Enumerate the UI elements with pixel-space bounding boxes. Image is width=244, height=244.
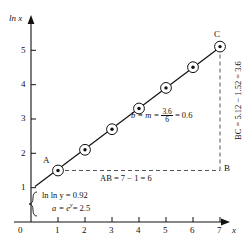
- x-tick-label-1: 1: [55, 226, 60, 235]
- intercept-ln-y: ln y = 0.92: [51, 190, 88, 200]
- point-c-marker: [215, 41, 226, 52]
- y-tick-label-4: 4: [21, 80, 26, 89]
- intercept-a-tail: = 2.5: [73, 203, 91, 213]
- run-annotation-ab: AB = 7 − 1 = 6: [100, 174, 152, 183]
- slope-annotation: b = m = 3.6 6 = 0.6: [131, 108, 192, 125]
- y-tick-label-3: 3: [21, 114, 26, 123]
- slope-fraction: 3.6 6: [161, 108, 172, 125]
- x-tick-label-3: 3: [109, 226, 114, 235]
- y-tick-label-1: 1: [21, 183, 26, 192]
- x-tick-label-7: 7: [217, 226, 222, 235]
- x-tick-label-0: 0: [18, 226, 23, 235]
- slope-lead: b = m =: [131, 110, 159, 120]
- y-tick-label-5: 5: [21, 46, 26, 55]
- point-label-c: C: [214, 30, 220, 39]
- point-label-a: A: [43, 156, 50, 165]
- y-tick-label-2: 2: [21, 149, 26, 158]
- x-axis-label: x: [232, 226, 236, 235]
- x-tick-label-4: 4: [136, 226, 141, 235]
- y-axis-arrow: [28, 15, 35, 24]
- intercept-a-lead: a = e: [52, 203, 70, 213]
- intercept-annotation-line-2: a = ey= 2.5: [52, 202, 90, 212]
- y-axis-label: ln x: [9, 14, 22, 23]
- x-tick-label-6: 6: [190, 226, 195, 235]
- slope-denominator: 6: [161, 116, 172, 124]
- intercept-annotation-line-1: ln ln y = 0.92: [42, 191, 88, 200]
- x-tick-marks: [58, 217, 220, 222]
- plot-canvas: [0, 0, 244, 244]
- slope-result: = 0.6: [175, 110, 193, 120]
- rise-annotation-bc: BC = 5.12 − 1.52 = 3.6: [234, 61, 243, 140]
- x-tick-label-2: 2: [82, 226, 87, 235]
- intercept-brace: [29, 192, 37, 216]
- x-tick-label-5: 5: [163, 226, 168, 235]
- x-axis-arrow: [221, 219, 230, 226]
- point-label-b: B: [224, 164, 230, 173]
- semi-log-plot-figure: ln x x 1 2 3 4 5 0 1 2 3 4 5 6 7 A B C b…: [0, 0, 244, 244]
- y-tick-marks: [31, 50, 36, 187]
